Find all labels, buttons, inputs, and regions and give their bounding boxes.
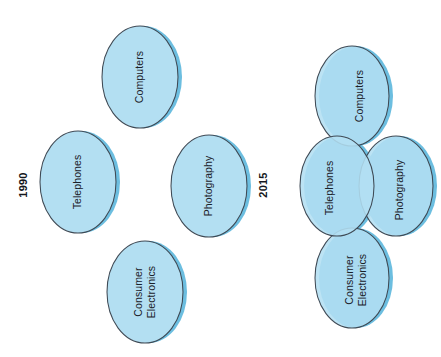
- ellipse-2015-telephones: Telephones: [300, 136, 374, 236]
- ellipse-1990-consumer-electronics: Consumer Electronics: [107, 241, 187, 343]
- ellipse-label-telephones: Telephones: [71, 155, 83, 210]
- ellipse-label-telephones: Telephones: [323, 161, 335, 216]
- group-2015: 2015 Computers Photography: [257, 46, 437, 328]
- group-label-2015: 2015: [257, 172, 269, 197]
- ellipse-label-consumer-electronics-line1: Consumer: [132, 267, 144, 317]
- group-label-1990: 1990: [17, 172, 29, 197]
- ellipse-1990-telephones: Telephones: [40, 131, 120, 233]
- ellipse-label-computers: Computers: [133, 51, 145, 103]
- diagram-canvas: 1990 Computers Telephones Photography: [0, 0, 441, 357]
- ellipse-1990-computers: Computers: [102, 26, 182, 128]
- ellipse-2015-consumer-electronics: Consumer Electronics: [315, 228, 389, 328]
- convergence-diagram: 1990 Computers Telephones Photography: [0, 0, 441, 357]
- ellipse-body: [300, 136, 374, 236]
- ellipse-label-photography: Photography: [393, 159, 405, 220]
- ellipse-1990-photography: Photography: [171, 135, 251, 237]
- ellipse-label-computers: Computers: [353, 70, 365, 122]
- ellipse-label-photography: Photography: [202, 155, 214, 216]
- ellipse-label-consumer-electronics-line1: Consumer: [343, 255, 355, 305]
- ellipse-label-consumer-electronics-line2: Electronics: [145, 266, 157, 318]
- ellipse-label-consumer-electronics-line2: Electronics: [356, 254, 368, 306]
- ellipse-2015-computers: Computers: [315, 46, 389, 146]
- group-1990: 1990 Computers Telephones Photography: [17, 26, 251, 343]
- ellipse-label-consumer-electronics-group: Consumer Electronics: [343, 254, 368, 306]
- ellipse-label-consumer-electronics-group: Consumer Electronics: [132, 266, 157, 318]
